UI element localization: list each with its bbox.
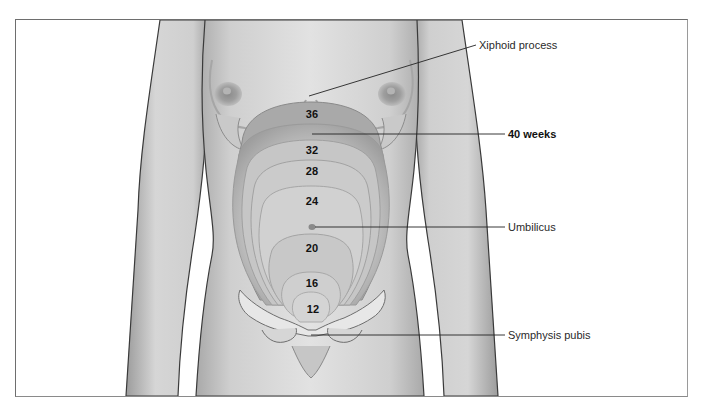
week-28-label: 28 bbox=[306, 165, 319, 177]
week-24-label: 24 bbox=[306, 195, 319, 207]
forty-weeks-label: 40 weeks bbox=[508, 128, 556, 140]
right-arm bbox=[412, 20, 498, 396]
week-20-label: 20 bbox=[306, 242, 319, 254]
umbilicus bbox=[309, 224, 316, 230]
left-arm bbox=[126, 20, 210, 396]
umbilicus-label: Umbilicus bbox=[508, 221, 556, 233]
week-32-label: 32 bbox=[306, 144, 319, 156]
anatomy-illustration bbox=[0, 0, 703, 406]
symphysis-pubis-label: Symphysis pubis bbox=[508, 329, 591, 341]
week-36-label: 36 bbox=[306, 108, 319, 120]
uterus-fundal-rings bbox=[233, 102, 390, 322]
week-12-label: 12 bbox=[307, 303, 320, 315]
xiphoid-process-label: Xiphoid process bbox=[479, 39, 557, 51]
week-16-label: 16 bbox=[306, 277, 319, 289]
